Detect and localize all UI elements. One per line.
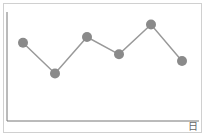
data-point	[82, 32, 92, 42]
data-point	[177, 56, 187, 66]
data-point	[50, 69, 60, 79]
x-axis-label: 日	[188, 121, 198, 133]
series-line	[23, 25, 182, 74]
data-point	[114, 49, 124, 59]
data-point	[146, 20, 156, 30]
data-point	[18, 38, 28, 48]
line-chart	[0, 0, 206, 137]
